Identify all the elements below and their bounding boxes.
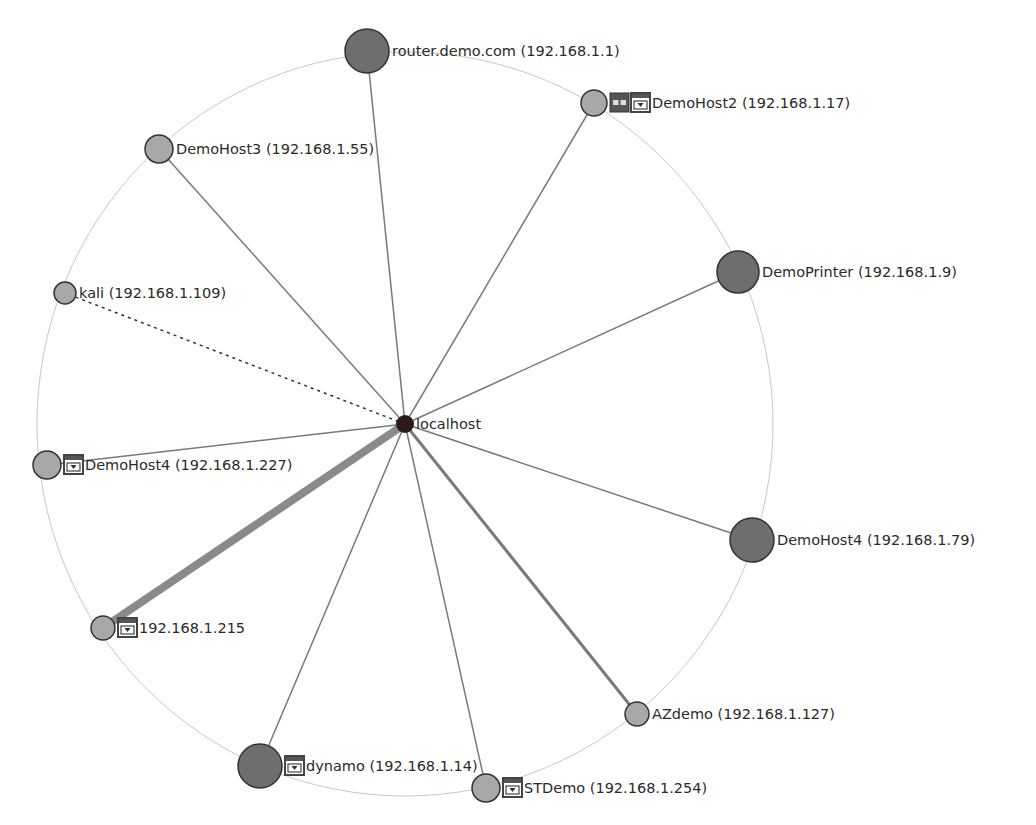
firewall-icon [285,756,304,775]
host-node-azdemo[interactable]: AZdemo (192.168.1.127) [625,702,835,726]
firewall-icon [118,618,137,637]
host-circle[interactable] [625,702,649,726]
host-circle[interactable] [581,90,607,116]
host-circle[interactable] [238,744,282,788]
host-label: router.demo.com (192.168.1.1) [392,43,620,59]
firewall-icon [503,778,522,797]
network-topology-diagram: router.demo.com (192.168.1.1)DemoHost2 (… [0,0,1036,825]
host-node-router[interactable]: router.demo.com (192.168.1.1) [345,29,620,73]
router-icon [610,93,629,112]
host-label: DemoHost2 (192.168.1.17) [652,95,850,111]
host-label: AZdemo (192.168.1.127) [652,706,835,722]
edge-localhost-kali[interactable] [65,293,405,424]
edge-localhost-router[interactable] [367,51,405,424]
firewall-icon [64,455,83,474]
host-circle[interactable] [91,616,115,640]
host-label: kali (192.168.1.109) [79,285,226,301]
host-label: DemoHost4 (192.168.1.227) [85,457,292,473]
host-node-demohost4-79[interactable]: DemoHost4 (192.168.1.79) [730,518,975,562]
localhost-label: localhost [416,416,481,432]
edge-localhost-stdemo[interactable] [405,424,486,788]
host-label: dynamo (192.168.1.14) [306,758,478,774]
center-node-localhost[interactable]: localhost [396,415,481,433]
host-label: DemoHost4 (192.168.1.79) [777,532,975,548]
host-circle[interactable] [145,135,173,163]
edge-localhost-azdemo[interactable] [405,424,637,714]
host-node-demohost2[interactable]: DemoHost2 (192.168.1.17) [581,90,850,116]
host-circle[interactable] [717,251,759,293]
nodes-layer: router.demo.com (192.168.1.1)DemoHost2 (… [33,29,975,802]
host-circle[interactable] [54,282,76,304]
host-node-stdemo[interactable]: STDemo (192.168.1.254) [472,774,707,802]
host-node-demoprinter[interactable]: DemoPrinter (192.168.1.9) [717,251,957,293]
localhost-node-circle[interactable] [396,415,414,433]
edge-localhost-demoprinter[interactable] [405,272,738,424]
host-label: STDemo (192.168.1.254) [524,780,707,796]
edge-localhost-host-215[interactable] [103,424,405,628]
host-node-demohost3[interactable]: DemoHost3 (192.168.1.55) [145,135,374,163]
host-label: 192.168.1.215 [139,620,245,636]
firewall-icon [631,93,650,112]
host-circle[interactable] [33,451,61,479]
host-circle[interactable] [345,29,389,73]
host-node-demohost4-227[interactable]: DemoHost4 (192.168.1.227) [33,451,292,479]
host-label: DemoPrinter (192.168.1.9) [762,264,957,280]
host-circle[interactable] [730,518,774,562]
host-circle[interactable] [472,774,500,802]
host-node-kali[interactable]: kali (192.168.1.109) [54,282,226,304]
host-node-dynamo[interactable]: dynamo (192.168.1.14) [238,744,478,788]
host-label: DemoHost3 (192.168.1.55) [176,141,374,157]
edge-localhost-demohost2[interactable] [405,103,594,424]
edge-localhost-demohost4-79[interactable] [405,424,752,540]
